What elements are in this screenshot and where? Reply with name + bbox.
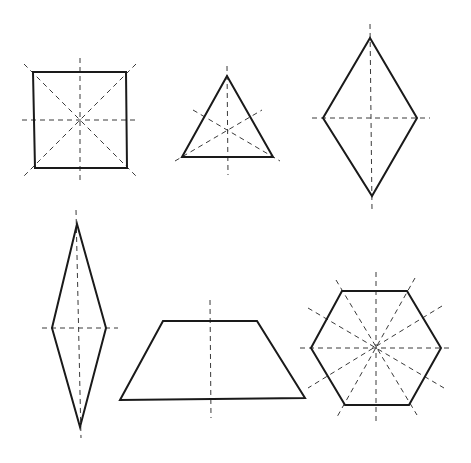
shape-rhombus [312,24,430,210]
symmetry-axis [210,300,211,418]
isosceles-trapezoid-outline [120,321,305,400]
tall-rhombus-outline [52,224,106,427]
symmetry-axis [193,110,280,161]
symmetry-diagram [0,0,471,463]
symmetry-axis [175,110,262,161]
shape-tall-rhombus [42,210,118,438]
shape-square [22,58,138,182]
shape-regular-hexagon [300,272,452,425]
symmetry-axis [370,24,372,210]
shape-equilateral-triangle [175,66,280,175]
shape-isosceles-trapezoid [120,300,305,418]
symmetry-axis [76,210,81,438]
symmetry-axis [227,66,228,175]
